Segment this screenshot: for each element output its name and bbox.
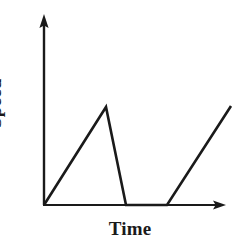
y-axis-label: Speed [0, 98, 50, 128]
x-axis-label: Time [86, 218, 174, 240]
speed-curve [44, 106, 231, 205]
speed-time-graph: Speed Time [0, 0, 237, 241]
